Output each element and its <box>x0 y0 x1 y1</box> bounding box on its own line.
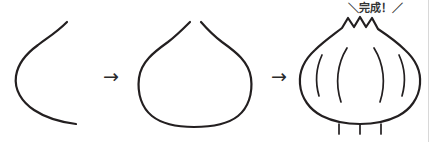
illustration-canvas: → → ＼完成！／ <box>0 0 433 142</box>
clove-arc-2 <box>338 48 347 102</box>
outline-left-path <box>139 22 194 127</box>
step-arrow-1: → <box>94 62 128 90</box>
completion-label: ＼完成！／ <box>336 0 414 17</box>
left-contour-path <box>16 22 76 124</box>
clove-arc-3 <box>374 48 383 102</box>
outline-right-path <box>194 22 251 127</box>
clove-arc-4 <box>399 55 404 96</box>
step-3-drawing <box>294 0 428 142</box>
panel-right-border <box>428 0 429 142</box>
step-arrow-2: → <box>262 62 296 90</box>
clove-arc-1 <box>317 55 322 96</box>
step-2-drawing <box>128 0 262 142</box>
